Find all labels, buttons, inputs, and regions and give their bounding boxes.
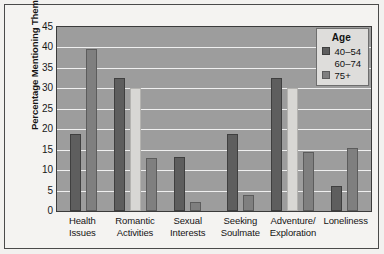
bar: [227, 134, 238, 211]
bar-group: [214, 27, 266, 211]
x-category-label: RomanticActivities: [109, 215, 162, 238]
legend-swatch-icon: [322, 47, 330, 55]
y-tick-label: 35: [27, 61, 53, 72]
legend-item: 75+: [322, 69, 361, 81]
x-category-label-line: Health: [56, 215, 109, 227]
y-tick-label: 30: [27, 82, 53, 93]
y-tick-label: 0: [27, 205, 53, 216]
bar: [174, 157, 185, 211]
bar-group: [109, 27, 161, 211]
x-category-label-line: Sexual: [161, 215, 214, 227]
bar: [303, 152, 314, 211]
legend-label: 40–54: [335, 46, 361, 57]
x-category-label-line: Activities: [109, 227, 162, 239]
x-axis-category-labels: HealthIssuesRomanticActivitiesSexualInte…: [56, 215, 372, 238]
x-category-label-line: Exploration: [267, 227, 320, 239]
x-category-label-line: Soulmate: [214, 227, 267, 239]
legend-label: 75+: [335, 70, 351, 81]
y-tick-label: 5: [27, 184, 53, 195]
y-axis-tick-labels: 454035302520151050: [27, 19, 53, 215]
bar: [114, 78, 125, 211]
x-category-label-line: Seeking: [214, 215, 267, 227]
bar: [130, 88, 141, 211]
figure-frame: Percentage Mentioning Theme 454035302520…: [4, 4, 379, 249]
legend-swatch-icon: [322, 71, 330, 79]
y-tick-label: 10: [27, 164, 53, 175]
chart-figure: Percentage Mentioning Theme 454035302520…: [0, 0, 384, 254]
x-category-label: Adventure/Exploration: [267, 215, 320, 238]
y-tick-label: 25: [27, 102, 53, 113]
legend-item: 60–74: [322, 57, 361, 69]
bar: [86, 49, 97, 211]
bar: [271, 78, 282, 211]
bar: [70, 134, 81, 211]
bar-group: [266, 27, 318, 211]
bar: [146, 158, 157, 211]
x-category-label-line: Interests: [161, 227, 214, 239]
x-category-label-line: Issues: [56, 227, 109, 239]
bar: [347, 148, 358, 211]
x-category-label: SeekingSoulmate: [214, 215, 267, 238]
legend-items: 40–5460–7475+: [322, 45, 361, 81]
legend-item: 40–54: [322, 45, 361, 57]
y-tick-label: 40: [27, 41, 53, 52]
bar: [331, 186, 342, 211]
y-tick-label: 45: [27, 21, 53, 32]
x-category-label-line: Romantic: [109, 215, 162, 227]
x-category-label: HealthIssues: [56, 215, 109, 238]
x-category-label: SexualInterests: [161, 215, 214, 238]
legend-label: 60–74: [335, 58, 361, 69]
x-category-label-line: Loneliness: [319, 215, 372, 227]
y-tick-label: 15: [27, 143, 53, 154]
chart-legend: Age 40–5460–7475+: [316, 28, 369, 86]
bar-group: [57, 27, 109, 211]
bar: [190, 202, 201, 211]
bar-group: [162, 27, 214, 211]
bar: [287, 88, 298, 211]
y-tick-label: 20: [27, 123, 53, 134]
legend-title: Age: [322, 32, 361, 43]
bar: [243, 195, 254, 211]
x-category-label-line: Adventure/: [267, 215, 320, 227]
legend-swatch-icon: [322, 59, 330, 67]
x-category-label: Loneliness: [319, 215, 372, 238]
